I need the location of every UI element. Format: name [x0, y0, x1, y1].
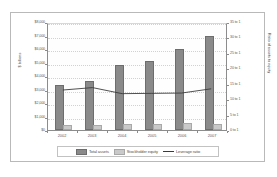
x-axis-tick-label: 2003 [88, 133, 97, 138]
x-axis-labels: 200220032004200520062007 [47, 133, 227, 143]
legend-swatch-icon [114, 149, 125, 155]
chart-container: $ billions Ratio of assets to equity $0$… [10, 12, 265, 162]
y-axis-left-labels: $0$1,000$2,000$3,000$4,000$5,000$6,000$7… [17, 23, 45, 131]
y-axis-right-tick-label: 25 to 1 [230, 52, 240, 56]
x-axis-tick [137, 131, 138, 133]
x-axis-tick-label: 2007 [208, 133, 217, 138]
y-axis-right-tick-label: 15 to 1 [230, 83, 240, 87]
legend-item: Stockholder equity [114, 149, 158, 155]
x-axis-tick [197, 131, 198, 133]
y-axis-left-tick-label: $6,000 [35, 48, 45, 52]
y-axis-left-tick-label: $8,000 [35, 21, 45, 25]
chart-legend: Total assetsStockholder equityLeverage r… [57, 146, 219, 157]
x-axis-tick-label: 2006 [178, 133, 187, 138]
leverage-ratio-polyline [63, 88, 211, 94]
y-axis-right-title: Ratio of assets to equity [267, 24, 271, 82]
y-axis-left-tick-label: $7,000 [35, 35, 45, 39]
y-axis-left-tick-label: $3,000 [35, 89, 45, 93]
x-axis-tick-label: 2004 [118, 133, 127, 138]
legend-line-marker-icon [163, 151, 174, 152]
y-axis-left-tick-label: $2,000 [35, 102, 45, 106]
legend-label: Stockholder equity [127, 149, 158, 154]
x-axis-tick [47, 131, 48, 133]
legend-item: Total assets [76, 149, 109, 155]
x-axis-tick [167, 131, 168, 133]
legend-swatch-icon [76, 149, 87, 155]
y-axis-left-tick-label: $5,000 [35, 62, 45, 66]
x-axis-tick-label: 2002 [58, 133, 67, 138]
x-axis-tick [227, 131, 228, 133]
y-axis-right-tick-label: 30 to 1 [230, 37, 240, 41]
y-axis-right-labels: 0 to 15 to 110 to 115 to 120 to 125 to 1… [230, 23, 258, 131]
legend-item: Leverage ratio [163, 149, 200, 154]
x-axis-tick-label: 2005 [148, 133, 157, 138]
y-axis-left-tick-label: $4,000 [35, 75, 45, 79]
y-axis-right-tick-label: 5 to 1 [230, 114, 238, 118]
x-axis-tick [107, 131, 108, 133]
legend-label: Leverage ratio [176, 149, 200, 154]
plot-area [47, 23, 227, 131]
y-axis-right-tick-label: 35 to 1 [230, 21, 240, 25]
leverage-ratio-line [48, 24, 226, 130]
y-axis-left-tick-label: $1,000 [35, 116, 45, 120]
legend-label: Total assets [89, 149, 109, 154]
y-axis-right-tick-label: 10 to 1 [230, 98, 240, 102]
x-axis-tick [77, 131, 78, 133]
y-axis-right-tick-label: 20 to 1 [230, 67, 240, 71]
y-axis-right-tick-label: 0 to 1 [230, 129, 238, 133]
